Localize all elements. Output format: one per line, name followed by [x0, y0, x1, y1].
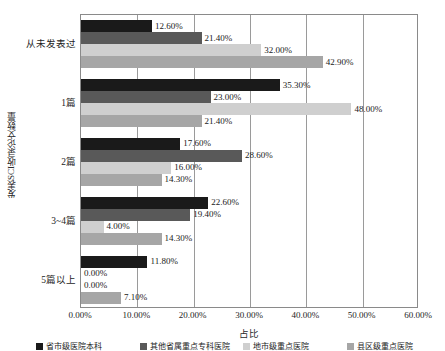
bar-value-label: 12.60% — [155, 22, 183, 31]
legend-label: 地市级重点医院 — [253, 342, 309, 351]
bar-row[interactable]: 35.30% — [81, 79, 311, 91]
bar-row[interactable]: 32.00% — [81, 44, 292, 56]
bar-group: 22.60%19.40%4.00%14.30% — [81, 191, 417, 250]
bar-value-label: 21.40% — [205, 34, 233, 43]
bar-group: 11.80%0.00%0.00%7.10% — [81, 250, 417, 309]
x-tick-label: 0.00% — [68, 310, 91, 320]
bar-group: 17.60%28.60%16.00%14.30% — [81, 133, 417, 192]
bar-row[interactable]: 12.60% — [81, 20, 183, 32]
bar-row[interactable]: 21.40% — [81, 32, 232, 44]
bar-value-label: 28.60% — [245, 151, 273, 160]
bar[interactable] — [81, 256, 147, 268]
bar-row[interactable]: 28.60% — [81, 150, 273, 162]
bar-row[interactable]: 14.30% — [81, 233, 192, 245]
legend-label: 省市级医院本科 — [46, 342, 102, 351]
y-axis-title: 发表SCI收录论文数量 — [2, 0, 18, 310]
category-label-0: 从未发表过 — [26, 36, 76, 50]
bar-row[interactable]: 19.40% — [81, 209, 221, 221]
bar[interactable] — [81, 56, 323, 68]
bar-row[interactable]: 0.00% — [81, 280, 107, 292]
bar-value-label: 14.30% — [165, 175, 193, 184]
chart-legend: 省市级医院本科其他省属重点专科医院地市级重点医院县区级重点医院 — [0, 342, 445, 351]
legend-swatch — [347, 343, 354, 350]
bar-row[interactable]: 48.00% — [81, 103, 382, 115]
bar[interactable] — [81, 20, 152, 32]
x-axis-ticks: 0.00%10.00%20.00%30.00%40.00%50.00%60.00… — [80, 310, 418, 324]
x-tick-label: 60.00% — [404, 310, 432, 320]
bar[interactable] — [81, 91, 211, 103]
bar-value-label: 0.00% — [84, 269, 107, 278]
y-axis-category-labels: 从未发表过1篇2篇3~4篇5篇以上 — [18, 14, 78, 308]
bar[interactable] — [81, 115, 202, 127]
bar-value-label: 19.40% — [193, 210, 221, 219]
bar-value-label: 21.40% — [205, 117, 233, 126]
bar-value-label: 0.00% — [84, 281, 107, 290]
bar-value-label: 16.00% — [174, 163, 202, 172]
bar[interactable] — [81, 79, 280, 91]
bar[interactable] — [81, 138, 180, 150]
x-tick-label: 40.00% — [291, 310, 319, 320]
category-label-4: 5篇以上 — [41, 272, 76, 286]
legend-label: 其他省属重点专科医院 — [150, 342, 230, 351]
bar-row[interactable]: 17.60% — [81, 138, 211, 150]
bar-group: 35.30%23.00%48.00%21.40% — [81, 74, 417, 133]
category-label-1: 1篇 — [61, 95, 76, 109]
bar-value-label: 35.30% — [283, 81, 311, 90]
chart-container: 发表SCI收录论文数量 从未发表过1篇2篇3~4篇5篇以上 12.60%21.4… — [0, 0, 445, 351]
legend-label: 县区级重点医院 — [357, 342, 413, 351]
bar-row[interactable]: 14.30% — [81, 174, 192, 186]
bar-value-label: 4.00% — [107, 222, 130, 231]
legend-swatch — [140, 343, 147, 350]
y-axis-title-text: 发表SCI收录论文数量 — [4, 112, 17, 198]
legend-item[interactable]: 省市级医院本科 — [36, 342, 102, 351]
legend-swatch — [36, 343, 43, 350]
bar-row[interactable]: 21.40% — [81, 115, 232, 127]
bar-group: 12.60%21.40%32.00%42.90% — [81, 15, 417, 74]
bar-row[interactable]: 16.00% — [81, 162, 202, 174]
category-label-3: 3~4篇 — [51, 213, 76, 227]
bar-value-label: 11.80% — [150, 257, 177, 266]
x-axis-title: 占比 — [80, 326, 418, 340]
bar-row[interactable]: 4.00% — [81, 221, 130, 233]
bar[interactable] — [81, 209, 190, 221]
x-tick-label: 30.00% — [235, 310, 263, 320]
legend-item[interactable]: 地市级重点医院 — [243, 342, 309, 351]
bar-row[interactable]: 42.90% — [81, 56, 353, 68]
bar[interactable] — [81, 197, 208, 209]
bar-row[interactable]: 11.80% — [81, 256, 178, 268]
legend-item[interactable]: 其他省属重点专科医院 — [140, 342, 230, 351]
bar-row[interactable]: 23.00% — [81, 91, 241, 103]
bar[interactable] — [81, 221, 104, 233]
bar-value-label: 23.00% — [214, 93, 242, 102]
bar[interactable] — [81, 174, 162, 186]
bar-value-label: 7.10% — [124, 293, 147, 302]
bar-value-label: 42.90% — [326, 58, 354, 67]
legend-item[interactable]: 县区级重点医院 — [347, 342, 413, 351]
bar-value-label: 22.60% — [211, 198, 239, 207]
bar-value-label: 32.00% — [264, 46, 292, 55]
category-label-2: 2篇 — [61, 154, 76, 168]
legend-swatch — [243, 343, 250, 350]
bar[interactable] — [81, 162, 171, 174]
bar[interactable] — [81, 150, 242, 162]
bar-value-label: 17.60% — [183, 139, 211, 148]
bar-row[interactable]: 22.60% — [81, 197, 239, 209]
bar-value-label: 14.30% — [165, 234, 193, 243]
plot-area: 12.60%21.40%32.00%42.90%35.30%23.00%48.0… — [80, 14, 418, 308]
bar[interactable] — [81, 32, 202, 44]
bar-value-label: 48.00% — [354, 105, 382, 114]
bar-row[interactable]: 7.10% — [81, 292, 147, 304]
bar-row[interactable]: 0.00% — [81, 268, 107, 280]
bar[interactable] — [81, 103, 351, 115]
x-tick-label: 10.00% — [122, 310, 150, 320]
x-tick-label: 20.00% — [179, 310, 207, 320]
x-tick-label: 50.00% — [348, 310, 376, 320]
bar[interactable] — [81, 44, 261, 56]
bar[interactable] — [81, 292, 121, 304]
bar[interactable] — [81, 233, 162, 245]
